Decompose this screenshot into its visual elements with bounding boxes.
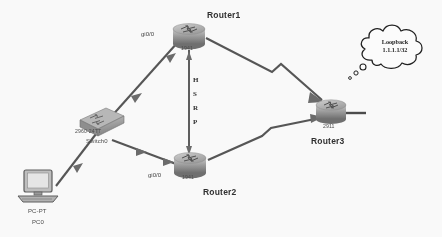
pc0-icon (18, 170, 58, 202)
loopback-label: Loopback (366, 38, 424, 46)
router3-name-label: Router3 (311, 136, 345, 146)
router1-model-label: 1941 (181, 45, 193, 51)
link-switch-router1 (110, 42, 178, 118)
router2-gi00-interface-label: gi0/0 (148, 172, 161, 178)
router2-name-label: Router2 (203, 187, 237, 197)
hsrp-letter-h: H (193, 76, 198, 84)
network-topology-diagram: Router1 1941 Router2 1941 Router3 2911 2… (0, 0, 442, 237)
switch0-name-label: Switch0 (86, 138, 108, 144)
link-switch-router2 (112, 140, 176, 166)
router2-model-label: 1941 (182, 174, 194, 180)
connections-layer (0, 0, 442, 237)
link-router1-router3-serial (206, 38, 324, 103)
switch0-model-label: 2960-24TT (75, 128, 101, 134)
router3-model-label: 2911 (323, 123, 335, 129)
link-router1-router2 (186, 50, 192, 156)
hsrp-letter-p: P (193, 118, 197, 126)
router1-gi00-interface-label: gi0/0 (141, 31, 154, 37)
loopback-cloud-text: Loopback 1.1.1.1/32 (366, 38, 424, 54)
loopback-address: 1.1.1.1/32 (366, 46, 424, 54)
pc0-model-label: PC-PT (28, 208, 47, 214)
hsrp-letter-s: S (193, 90, 197, 98)
link-router2-router3-serial (208, 114, 323, 160)
pc0-name-label: PC0 (32, 219, 44, 225)
router3-icon (316, 100, 346, 124)
router1-name-label: Router1 (207, 10, 241, 20)
hsrp-letter-r: R (193, 104, 198, 112)
